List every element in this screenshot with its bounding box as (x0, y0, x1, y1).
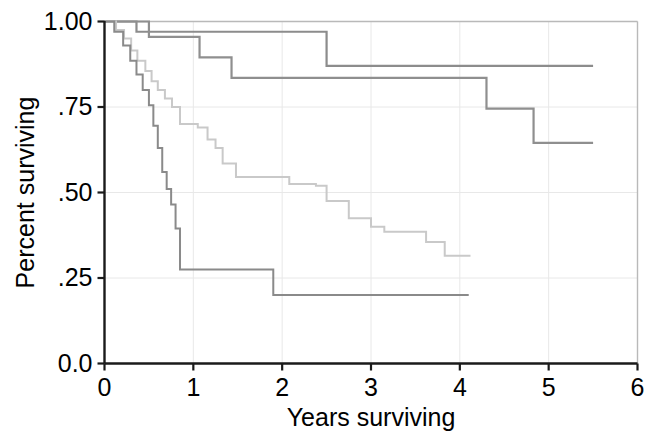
y-tick-label: 0.0 (58, 349, 93, 377)
y-axis-title: Percent surviving (11, 97, 39, 289)
x-axis-title: Years surviving (287, 403, 456, 431)
x-tick-label: 2 (275, 373, 289, 401)
x-tick-label: 3 (364, 373, 378, 401)
x-tick-label: 0 (98, 373, 112, 401)
y-tick-label: .50 (58, 178, 93, 206)
x-tick-label: 6 (631, 373, 645, 401)
x-tick-label: 1 (186, 373, 200, 401)
survival-chart-figure: 1.00.75.50.250.00123456Percent surviving… (0, 0, 645, 431)
y-tick-label: 1.00 (44, 7, 93, 35)
y-tick-label: .25 (58, 263, 93, 291)
chart-canvas: 1.00.75.50.250.00123456Percent surviving… (0, 0, 645, 431)
y-tick-label: .75 (58, 92, 93, 120)
x-tick-label: 5 (542, 373, 556, 401)
x-tick-label: 4 (453, 373, 467, 401)
